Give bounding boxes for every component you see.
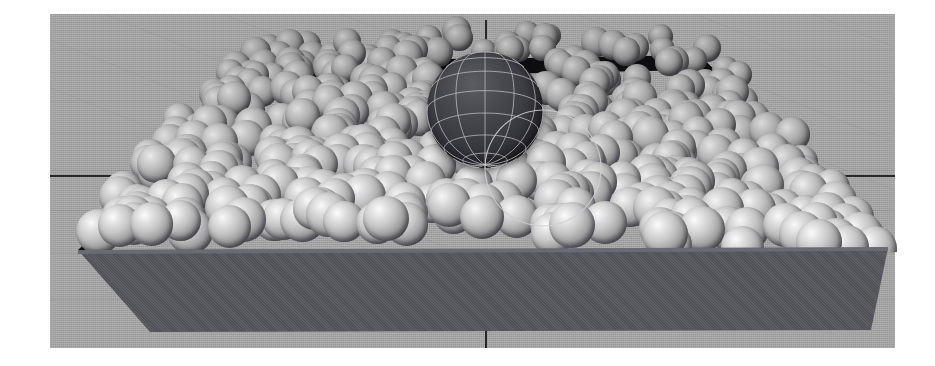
grain-sphere <box>130 202 174 246</box>
wireframe-line <box>456 53 485 165</box>
large-intruder-sphere <box>427 52 543 168</box>
grain-sphere <box>612 37 640 65</box>
wireframe-line <box>485 53 514 165</box>
intruder-wireframe <box>427 52 543 168</box>
grain-sphere <box>363 196 408 241</box>
render-viewport <box>0 0 935 366</box>
grain-sphere <box>460 195 505 240</box>
grain-sphere <box>208 205 251 248</box>
wireframe-line <box>435 59 485 165</box>
